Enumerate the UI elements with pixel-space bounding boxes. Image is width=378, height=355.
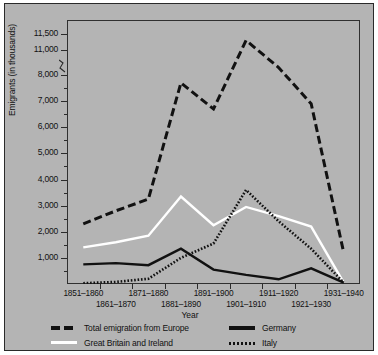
x-tick-label: 1891–1900 <box>190 288 238 298</box>
y-axis: Emigrants (in thousands) 11,50011,0008,0… <box>5 20 67 284</box>
y-tick-label: 3,000 <box>38 201 58 210</box>
x-axis: 1851–18601861–18701871–18801881–18901891… <box>67 284 360 312</box>
legend-swatch-white-line-icon <box>51 341 77 344</box>
x-axis-title: Year <box>5 310 374 320</box>
x-tick-label: 1881–1890 <box>157 299 205 309</box>
y-tick-label: 11,000 <box>34 45 58 54</box>
series-line-germany <box>83 249 343 283</box>
legend-swatch-dashed-line-icon <box>51 326 77 330</box>
chart-legend: Total emigration from Europe Great Brita… <box>51 322 351 350</box>
chart-figure: Emigrants (in thousands) 11,50011,0008,0… <box>4 3 374 351</box>
y-tick-label: 5,000 <box>38 148 58 157</box>
y-tick-label: 6,000 <box>38 122 58 131</box>
x-tick <box>230 284 231 289</box>
x-tick <box>295 284 296 289</box>
x-tick-label: 1931–1940 <box>320 288 368 298</box>
y-axis-title: Emigrants (in thousands) <box>7 6 17 116</box>
y-tick-label: 8,000 <box>38 70 58 79</box>
x-tick-label: 1871–1880 <box>124 288 172 298</box>
y-tick-label: 4,000 <box>38 175 58 184</box>
y-tick-label: 11,500 <box>34 29 58 38</box>
x-tick <box>100 284 101 289</box>
legend-swatch-dotted-line-icon <box>229 342 255 345</box>
plot-area <box>67 20 360 284</box>
legend-swatch-black-line-icon <box>229 326 255 330</box>
series-line-total-emigration-from-europe <box>83 40 343 252</box>
legend-label-italy: Italy <box>262 337 277 349</box>
x-tick-label: 1921–1930 <box>287 299 335 309</box>
x-tick-label: 1851–1860 <box>59 288 107 298</box>
legend-label-germany: Germany <box>262 322 296 334</box>
chart-lines <box>67 20 360 284</box>
x-tick-label: 1861–1870 <box>92 299 140 309</box>
y-tick-label: 1,000 <box>38 253 58 262</box>
y-tick-label: 2,000 <box>38 227 58 236</box>
y-tick-label: 7,000 <box>38 96 58 105</box>
legend-label-great-britain-and-ireland: Great Britain and Ireland <box>84 337 173 349</box>
x-tick-label: 1911–1920 <box>255 288 303 298</box>
x-tick-label: 1901–1910 <box>222 299 270 309</box>
legend-label-total: Total emigration from Europe <box>84 322 189 334</box>
x-tick <box>165 284 166 289</box>
